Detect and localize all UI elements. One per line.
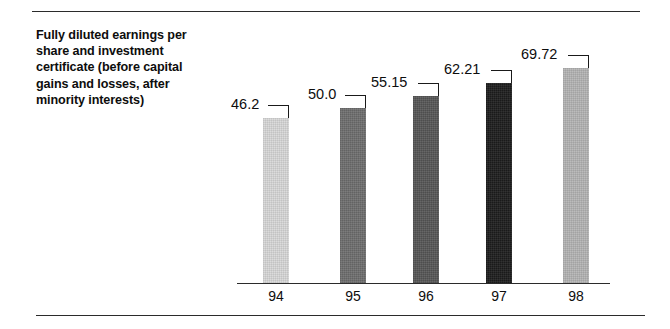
- leader-line-95: [345, 95, 366, 108]
- x-tick-label-96: 96: [413, 288, 439, 304]
- chart-figure: Fully diluted earnings per share and inv…: [0, 0, 670, 329]
- bar-94: [263, 118, 289, 283]
- x-tick-label-97: 97: [486, 288, 512, 304]
- x-axis-line: [237, 283, 610, 284]
- leader-line-98: [568, 55, 589, 68]
- leader-line-94: [268, 105, 289, 118]
- leader-line-96: [418, 83, 439, 96]
- bar-97: [486, 83, 512, 283]
- leader-line-97: [491, 70, 512, 83]
- bar-value-94: 46.2: [231, 96, 259, 112]
- bar-value-96: 55.15: [371, 74, 407, 90]
- bottom-divider-rule: [36, 315, 645, 316]
- x-tick-label-94: 94: [263, 288, 289, 304]
- bar-98: [563, 68, 589, 283]
- x-tick-label-95: 95: [340, 288, 366, 304]
- bar-value-95: 50.0: [308, 86, 336, 102]
- bar-value-97: 62.21: [444, 61, 480, 77]
- bar-96: [413, 96, 439, 283]
- bar-95: [340, 108, 366, 283]
- bar-value-98: 69.72: [521, 46, 557, 62]
- plot-area: 46.2 50.0 55.15 62.21 69.72 94 95 96 97 …: [0, 0, 670, 329]
- x-tick-label-98: 98: [563, 288, 589, 304]
